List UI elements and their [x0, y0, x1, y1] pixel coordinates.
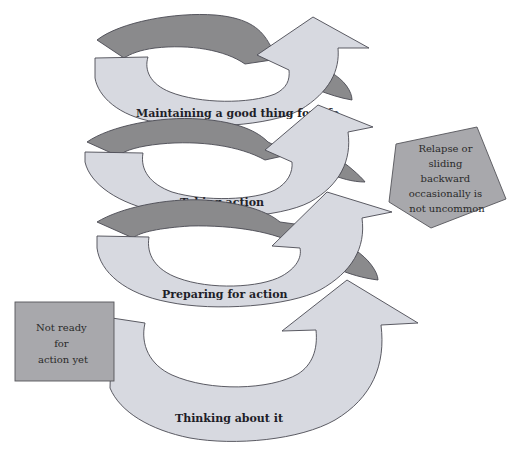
back-ribbon-maintaining-upper [97, 14, 285, 64]
note-relapse: Relapse or sliding backward occasionally… [389, 127, 506, 228]
stages-of-change-diagram: Maintaining a good thing for life Taking… [0, 0, 521, 455]
stage-label-thinking: Thinking about it [175, 412, 284, 425]
stage-label-preparing: Preparing for action [162, 288, 288, 301]
note-not-ready: Not ready for action yet [15, 302, 114, 381]
